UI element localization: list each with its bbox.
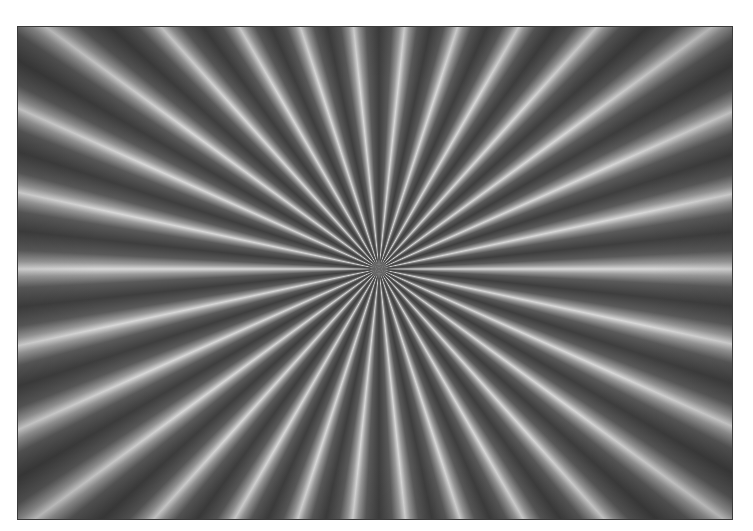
starburst-frame (17, 26, 733, 520)
corner-shading (18, 27, 732, 519)
